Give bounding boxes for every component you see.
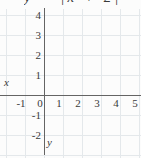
x-tick-label: 4 bbox=[113, 96, 119, 110]
y-tick-label: -2 bbox=[0, 128, 41, 142]
x-tick-label: 1 bbox=[56, 96, 62, 110]
y-tick-label: -1 bbox=[0, 108, 41, 122]
y-tick-label: 4 bbox=[0, 8, 41, 22]
y-tick-label: 2 bbox=[0, 48, 41, 62]
x-tick-label: 3 bbox=[94, 96, 100, 110]
x-tick-label: 2 bbox=[75, 96, 81, 110]
equation-text: y = |x + 2| bbox=[24, 0, 134, 3]
x-tick-label: 5 bbox=[132, 96, 138, 110]
y-axis-line bbox=[44, 8, 45, 155]
y-tick-label: 3 bbox=[0, 28, 41, 42]
graph-canvas: y = |x + 2| x y -1012345 4321-1-2 bbox=[0, 0, 141, 158]
equation-text-clipped: y = |x + 2| bbox=[24, 0, 134, 5]
y-tick-label: 1 bbox=[0, 68, 41, 82]
y-axis-label: y bbox=[47, 137, 52, 148]
